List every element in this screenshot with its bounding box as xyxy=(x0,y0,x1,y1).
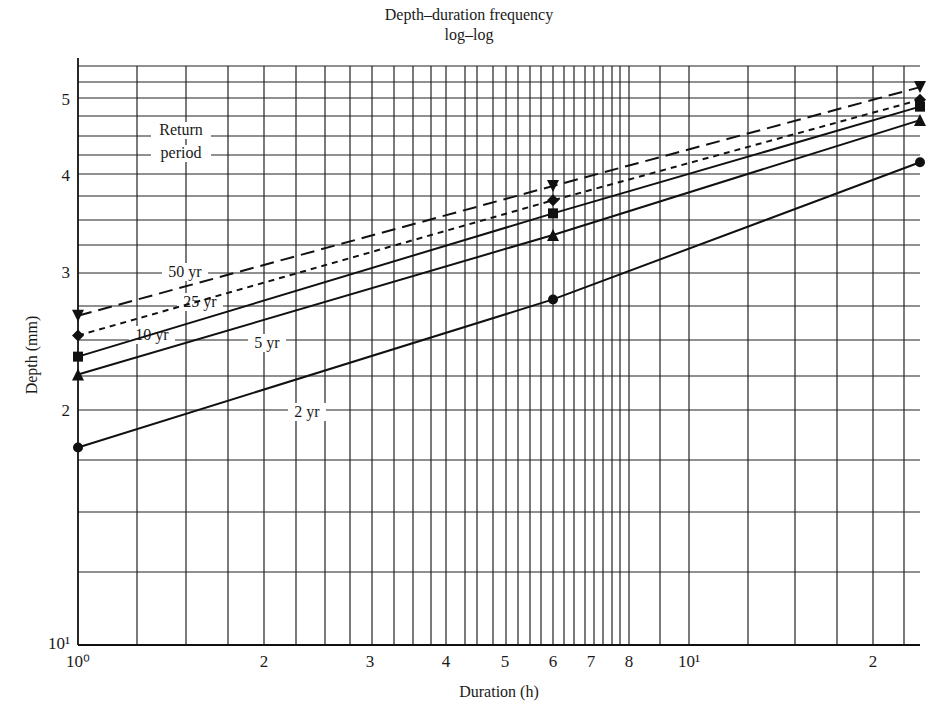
x-tick-label: 6 xyxy=(549,652,558,671)
x-tick-label: 4 xyxy=(442,652,451,671)
chart-plot: 10⁰234567810¹210¹2345 Returnperiod50 yr2… xyxy=(0,0,938,717)
square-marker xyxy=(73,352,83,362)
x-tick-label: 10¹ xyxy=(678,652,700,671)
inverted-triangle-marker xyxy=(914,81,926,93)
square-marker xyxy=(548,208,558,218)
y-axis-title: Depth (mm) xyxy=(23,316,41,395)
x-axis-title: Duration (h) xyxy=(459,683,539,701)
circle-marker xyxy=(73,443,83,453)
series-line xyxy=(78,107,920,357)
x-tick-label: 7 xyxy=(587,652,596,671)
square-marker xyxy=(915,102,925,112)
circle-marker xyxy=(548,294,558,304)
tick-labels: 10⁰234567810¹210¹2345 xyxy=(48,90,877,671)
series-label: 5 yr xyxy=(254,334,280,352)
y-tick-label: 5 xyxy=(62,90,71,109)
series-line xyxy=(78,87,920,316)
circle-marker xyxy=(915,157,925,167)
inverted-triangle-marker xyxy=(72,310,84,322)
triangle-marker xyxy=(547,229,559,241)
series-label: 25 yr xyxy=(183,293,217,311)
legend-title: Return xyxy=(159,121,203,138)
x-tick-label: 2 xyxy=(869,652,878,671)
x-tick-label: 8 xyxy=(625,652,634,671)
inverted-triangle-marker xyxy=(547,180,559,192)
x-tick-label: 10⁰ xyxy=(66,652,90,671)
y-tick-label: 4 xyxy=(62,166,71,185)
series-10-yr xyxy=(73,102,925,362)
y-tick-label: 3 xyxy=(62,263,71,282)
y-tick-label: 2 xyxy=(62,401,71,420)
legend-title: period xyxy=(161,144,202,162)
series-50-yr xyxy=(72,81,926,322)
x-tick-label: 5 xyxy=(501,652,510,671)
y-tick-label: 10¹ xyxy=(48,634,70,653)
triangle-marker xyxy=(72,368,84,380)
series-label: 50 yr xyxy=(168,263,202,281)
x-tick-label: 3 xyxy=(366,652,375,671)
x-tick-label: 2 xyxy=(260,652,269,671)
series-label: 2 yr xyxy=(294,403,320,421)
